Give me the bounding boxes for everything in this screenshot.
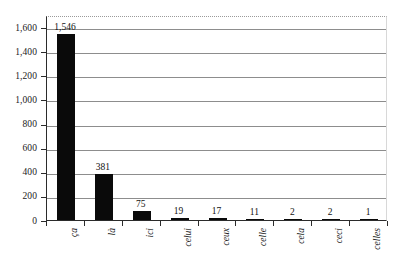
x-tick-mark: [273, 221, 274, 226]
bar-value-label: 381: [73, 163, 133, 173]
gridline: [47, 126, 386, 127]
y-tick-mark: [41, 149, 46, 150]
x-tick-mark: [387, 221, 388, 226]
x-category-label: ça: [69, 228, 79, 237]
bar[interactable]: [360, 219, 378, 220]
gridline: [47, 29, 386, 30]
x-tick-mark: [311, 221, 312, 226]
y-tick-label: 200: [0, 192, 37, 202]
x-category-label: celles: [372, 228, 382, 250]
x-category-label: ici: [145, 228, 155, 238]
plot-area: [46, 16, 387, 221]
bar[interactable]: [209, 218, 227, 220]
gridline: [47, 150, 386, 151]
x-category-label: celui: [183, 228, 193, 246]
gridline: [47, 77, 386, 78]
y-tick-label: 800: [0, 120, 37, 130]
y-tick-mark: [41, 100, 46, 101]
y-tick-label: 400: [0, 168, 37, 178]
bar[interactable]: [246, 219, 264, 220]
x-tick-mark: [349, 221, 350, 226]
gridline: [47, 53, 386, 54]
y-tick-mark: [41, 173, 46, 174]
x-tick-mark: [122, 221, 123, 226]
x-tick-mark: [235, 221, 236, 226]
y-tick-label: 0: [0, 217, 37, 227]
bar[interactable]: [171, 218, 189, 220]
x-tick-mark: [46, 221, 47, 226]
x-category-label: celle: [258, 228, 268, 246]
y-tick-mark: [41, 52, 46, 53]
bar-chart-figure: 02004006008001,0001,2001,4001,6001,546ça…: [0, 0, 409, 274]
y-tick-label: 1,000: [0, 96, 37, 106]
x-tick-mark: [84, 221, 85, 226]
bar[interactable]: [57, 34, 75, 220]
y-tick-label: 600: [0, 144, 37, 154]
y-tick-mark: [41, 125, 46, 126]
bar-value-label: 1,546: [35, 23, 95, 33]
bar[interactable]: [322, 219, 340, 220]
bar[interactable]: [95, 174, 113, 220]
y-tick-label: 1,200: [0, 72, 37, 82]
bar-value-label: 1: [338, 208, 398, 218]
gridline: [47, 101, 386, 102]
x-category-label: cela: [296, 228, 306, 244]
x-tick-mark: [198, 221, 199, 226]
x-category-label: ceux: [221, 228, 231, 245]
bar[interactable]: [284, 219, 302, 220]
x-category-label: ceci: [334, 228, 344, 243]
x-category-label: là: [107, 228, 117, 235]
x-tick-mark: [160, 221, 161, 226]
y-tick-label: 1,400: [0, 48, 37, 58]
y-tick-label: 1,600: [0, 24, 37, 34]
y-tick-mark: [41, 76, 46, 77]
y-tick-mark: [41, 197, 46, 198]
